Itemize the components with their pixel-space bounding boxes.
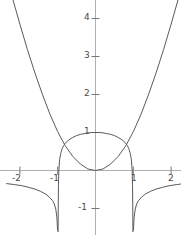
x-tick-label-1: 1	[131, 174, 137, 183]
x-tick-label-2: 2	[168, 174, 174, 183]
y-tick-label-1: 1	[84, 127, 90, 136]
x-tick-label-minus-2: -2	[12, 174, 21, 183]
axes-group	[0, 0, 181, 235]
function-graph-figure: 4 3 2 1 -1 -2 -1 1 2	[0, 0, 181, 235]
curve-group	[7, 0, 181, 231]
y-tick-label-3: 3	[84, 51, 90, 60]
curve-lower-left-branch	[7, 184, 58, 232]
y-tick-label-minus-1: -1	[78, 203, 87, 212]
y-tick-label-2: 2	[84, 89, 90, 98]
x-tick-label-minus-1: -1	[50, 174, 59, 183]
y-tick-label-4: 4	[84, 13, 90, 22]
curve-lower-right-branch	[133, 184, 181, 232]
plot-canvas	[0, 0, 181, 235]
